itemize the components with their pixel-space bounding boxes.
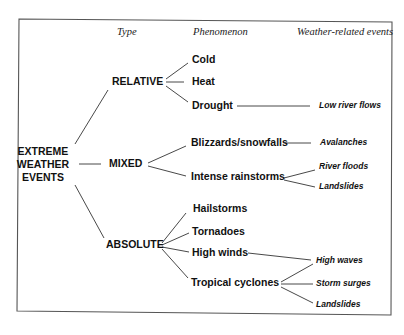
type-relative: RELATIVE bbox=[112, 76, 163, 87]
root-node: EXTREME WEATHER EVENTS bbox=[14, 145, 72, 184]
phenomenon-tornadoes: Tornadoes bbox=[192, 226, 245, 237]
phenomenon-blizzards-snowfalls: Blizzards/snowfalls bbox=[191, 137, 288, 148]
event-landslides-rainstorms: Landslides bbox=[319, 182, 363, 191]
event-avalanches: Avalanches bbox=[320, 138, 367, 147]
event-storm-surges: Storm surges bbox=[316, 279, 371, 288]
phenomenon-intense-rainstorms: Intense rainstorms bbox=[191, 171, 285, 182]
event-landslides-cyclones: Landslides bbox=[316, 300, 360, 309]
event-river-floods: River floods bbox=[319, 162, 368, 171]
type-mixed: MIXED bbox=[109, 158, 142, 169]
phenomenon-hailstorms: Hailstorms bbox=[193, 203, 247, 214]
event-high-waves: High waves bbox=[316, 256, 363, 265]
header-type: Type bbox=[117, 27, 137, 38]
phenomenon-drought: Drought bbox=[192, 100, 233, 111]
header-phenomenon: Phenomenon bbox=[193, 27, 248, 38]
phenomenon-high-winds: High winds bbox=[192, 247, 248, 258]
event-low-river-flows: Low river flows bbox=[319, 101, 381, 110]
type-absolute: ABSOLUTE bbox=[106, 239, 164, 250]
phenomenon-cold: Cold bbox=[192, 54, 215, 65]
phenomenon-heat: Heat bbox=[192, 76, 215, 87]
root-line-1: EXTREME bbox=[14, 145, 72, 158]
root-line-2: WEATHER bbox=[14, 158, 72, 171]
root-line-3: EVENTS bbox=[14, 171, 72, 184]
phenomenon-tropical-cyclones: Tropical cyclones bbox=[191, 277, 279, 288]
header-weather-related-events: Weather-related events bbox=[297, 27, 393, 38]
extreme-weather-diagram: Type Phenomenon Weather-related events E… bbox=[0, 0, 404, 335]
